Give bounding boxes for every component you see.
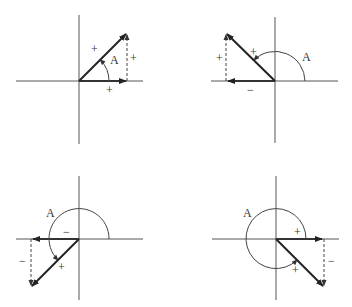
angle-label: A (110, 53, 119, 67)
angle-label: A (243, 206, 252, 220)
vector-arrow (79, 34, 126, 81)
y-component-sign: − (19, 254, 26, 268)
y-component-sign: + (130, 51, 137, 65)
vector-sign: + (292, 263, 299, 277)
vector-sign: + (250, 45, 257, 59)
angle-arc (254, 51, 305, 81)
x-component-sign: − (247, 83, 254, 97)
vector-sign: + (91, 42, 98, 56)
x-component-sign: + (106, 83, 113, 97)
x-component-sign: + (294, 225, 301, 239)
y-component-sign: − (328, 254, 335, 268)
diagram-quadrant-2: A + − + (211, 17, 338, 143)
x-component-sign: − (63, 225, 70, 239)
vector-sign: + (58, 260, 65, 274)
angle-label: A (46, 206, 55, 220)
diagram-quadrant-3: A + − − (16, 176, 143, 300)
angle-label: A (302, 50, 311, 64)
diagram-quadrant-1: A + + + (16, 15, 143, 144)
vector-arrow (32, 239, 79, 286)
diagram-quadrant-4: A + + − (212, 176, 339, 300)
angle-arc (100, 60, 109, 81)
vector-quadrant-diagrams: A + + + A + − + A + − − A + (0, 0, 352, 307)
y-component-sign: + (216, 51, 223, 65)
vector-arrow (276, 239, 323, 286)
